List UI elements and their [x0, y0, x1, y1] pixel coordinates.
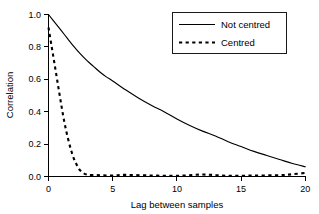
y-tick-labels: 0.0 0.2 0.4 0.6 0.8 1.0: [28, 10, 41, 182]
y-tick-label: 1.0: [28, 10, 41, 20]
y-axis-ticks: [44, 15, 49, 177]
chart-legend: Not centred Centred: [173, 13, 287, 54]
x-tick-label: 10: [172, 184, 182, 194]
legend-label-centred: Centred: [221, 37, 255, 48]
correlation-lag-chart: 0.0 0.2 0.4 0.6 0.8 1.0 0 5 10 15 20 Lag…: [0, 0, 319, 214]
x-tick-label: 20: [300, 184, 310, 194]
y-tick-label: 0.4: [28, 107, 41, 117]
x-tick-label: 5: [110, 184, 115, 194]
chart-canvas: 0.0 0.2 0.4 0.6 0.8 1.0 0 5 10 15 20 Lag…: [0, 0, 319, 214]
y-tick-label: 0.2: [28, 139, 41, 149]
y-axis-title: Correlation: [4, 72, 15, 118]
y-tick-label: 0.0: [28, 172, 41, 182]
x-tick-label: 15: [236, 184, 246, 194]
legend-label-not-centred: Not centred: [221, 19, 270, 30]
x-tick-labels: 0 5 10 15 20: [46, 184, 310, 194]
x-axis-ticks: [49, 177, 306, 182]
x-tick-label: 0: [46, 184, 51, 194]
y-tick-label: 0.6: [28, 74, 41, 84]
x-axis-title: Lag between samples: [131, 199, 224, 210]
y-tick-label: 0.8: [28, 42, 41, 52]
